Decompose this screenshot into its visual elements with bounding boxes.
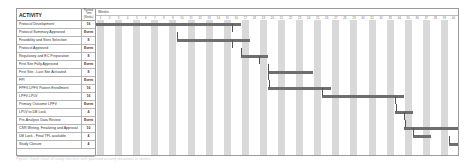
activity-duration: 4 bbox=[81, 141, 95, 148]
table-row: CSR Writing, Finalizing and Approval10 bbox=[17, 125, 95, 133]
activity-duration: Event bbox=[81, 61, 95, 68]
dependency-connector bbox=[232, 24, 242, 32]
activity-name: Protocol Summary Approved bbox=[19, 30, 65, 34]
week-label: 24 bbox=[304, 16, 313, 20]
table-row: LPLV to DB Lock4 bbox=[17, 109, 95, 117]
activity-duration: 4 bbox=[81, 109, 95, 116]
activity-name: First Site - Last Site Activated bbox=[19, 70, 66, 74]
activity-name: Regulatory and EC Preparation bbox=[19, 54, 69, 58]
week-label: 36 bbox=[413, 16, 422, 20]
activity-name: CSR Writing, Finalizing and Approval bbox=[19, 126, 78, 130]
activity-name: FPFV-LPFV Patient Enrollment bbox=[19, 86, 69, 90]
task-bar bbox=[96, 23, 241, 26]
dependency-connector bbox=[395, 104, 397, 112]
activity-duration: Event bbox=[81, 77, 95, 84]
activity-table: ACTIVITY Planned Time (Weeks) Protocol D… bbox=[17, 9, 96, 155]
week-label: 8 bbox=[159, 16, 168, 20]
activity-name: Primary Outcome LPFV bbox=[19, 102, 57, 106]
week-stripe bbox=[151, 20, 158, 155]
week-label: 14 bbox=[214, 16, 223, 20]
week-label: 34 bbox=[395, 16, 404, 20]
activity-duration: 8 bbox=[81, 69, 95, 76]
week-stripe bbox=[260, 20, 267, 155]
dependency-connector bbox=[177, 32, 232, 40]
timeline-area: Weeks 1234567891011121314151617181920212… bbox=[96, 9, 458, 155]
table-row: FPFV-LPFV Patient Enrollment16 bbox=[17, 85, 95, 93]
week-stripe bbox=[387, 20, 394, 155]
activity-duration: 4 bbox=[81, 133, 95, 140]
activity-name: Feasibility and Sites Selection bbox=[19, 38, 67, 42]
activity-duration: 10 bbox=[81, 125, 95, 132]
dependency-connector bbox=[431, 136, 450, 144]
table-row: LPFV-LPLV16 bbox=[17, 93, 95, 101]
week-stripe bbox=[115, 20, 122, 155]
week-label: 28 bbox=[340, 16, 349, 20]
activity-duration: 8 bbox=[81, 37, 95, 44]
table-row: DB Lock - Final TFL available4 bbox=[17, 133, 95, 141]
activity-column-header: ACTIVITY bbox=[19, 12, 42, 18]
table-row: Feasibility and Sites Selection8 bbox=[17, 37, 95, 45]
table-row: Protocol ApprovedEvent bbox=[17, 45, 95, 53]
week-label: 4 bbox=[123, 16, 132, 20]
activity-name: DB Lock - Final TFL available bbox=[19, 134, 66, 138]
dependency-connector bbox=[268, 80, 270, 88]
table-row: First Site Fully ApprovedEvent bbox=[17, 61, 95, 69]
week-stripe bbox=[97, 20, 104, 155]
table-row: Regulatory and EC Preparation8 bbox=[17, 53, 95, 61]
week-label: 2 bbox=[105, 16, 114, 20]
week-label: 26 bbox=[322, 16, 331, 20]
figure-caption: Figure: Gantt chart of study timeline wi… bbox=[16, 156, 457, 161]
dependency-connector bbox=[268, 72, 314, 80]
dependency-connector bbox=[232, 40, 251, 48]
task-bar bbox=[322, 95, 403, 98]
week-label: 30 bbox=[358, 16, 367, 20]
activity-name: LPLV to DB Lock bbox=[19, 110, 46, 114]
activity-duration: Event bbox=[81, 45, 95, 52]
activity-name: Study Closure bbox=[19, 142, 42, 146]
table-row: Protocol Development16 bbox=[17, 21, 95, 29]
table-header: ACTIVITY Planned Time (Weeks) bbox=[17, 9, 95, 21]
activity-name: FPI bbox=[19, 78, 25, 82]
week-label: 16 bbox=[232, 16, 241, 20]
activity-name: Pre-Analysis Data Review bbox=[19, 118, 61, 122]
table-row: Pre-Analysis Data ReviewEvent bbox=[17, 117, 95, 125]
activity-duration: 8 bbox=[81, 53, 95, 60]
week-stripe bbox=[169, 20, 176, 155]
dependency-connector bbox=[404, 120, 406, 128]
week-label: 18 bbox=[250, 16, 259, 20]
table-row: Protocol Summary ApprovedEvent bbox=[17, 29, 95, 37]
week-label: 38 bbox=[431, 16, 440, 20]
dependency-connector bbox=[404, 112, 414, 120]
week-label: 22 bbox=[286, 16, 295, 20]
gantt-chart: ACTIVITY Planned Time (Weeks) Protocol D… bbox=[16, 8, 459, 156]
table-row: FPIEvent bbox=[17, 77, 95, 85]
activity-name: LPFV-LPLV bbox=[19, 94, 38, 98]
table-row: Study Closure4 bbox=[17, 141, 95, 149]
week-label: 10 bbox=[177, 16, 186, 20]
activity-duration: 16 bbox=[81, 93, 95, 100]
week-label: 20 bbox=[268, 16, 277, 20]
timeline-label: Weeks bbox=[98, 10, 109, 14]
duration-header-line: (Weeks) bbox=[82, 16, 95, 19]
week-stripe bbox=[369, 20, 376, 155]
dependency-connector bbox=[395, 96, 405, 104]
activity-duration: 16 bbox=[81, 21, 95, 28]
table-row: Primary Outcome LPFVEvent bbox=[17, 101, 95, 109]
dependency-connector bbox=[259, 56, 269, 64]
activity-duration: Event bbox=[81, 29, 95, 36]
dependency-connector bbox=[232, 48, 242, 56]
week-label: 40 bbox=[449, 16, 458, 20]
activity-name: First Site Fully Approved bbox=[19, 62, 58, 66]
week-label: 6 bbox=[141, 16, 150, 20]
activity-name: Protocol Development bbox=[19, 22, 54, 26]
activity-duration: Event bbox=[81, 101, 95, 108]
dependency-connector bbox=[259, 64, 269, 72]
week-label: 32 bbox=[377, 16, 386, 20]
week-label: 12 bbox=[196, 16, 205, 20]
week-stripe bbox=[350, 20, 357, 155]
week-stripe bbox=[405, 20, 412, 155]
task-bar bbox=[449, 143, 458, 146]
activity-duration: 16 bbox=[81, 85, 95, 92]
week-stripe bbox=[332, 20, 339, 155]
activity-name: Protocol Approved bbox=[19, 46, 48, 50]
